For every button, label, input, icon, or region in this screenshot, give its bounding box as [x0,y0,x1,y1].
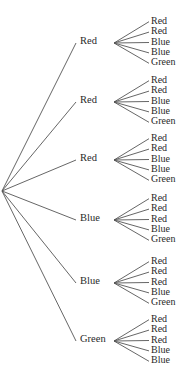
leaf-label-blue: Blue [151,355,170,365]
leaf-label-red: Red [151,266,167,276]
leaf-label-green: Green [151,116,175,126]
branch-line [114,320,149,341]
leaf-label-red: Red [151,214,167,224]
leaf-label-blue: Blue [151,96,170,106]
branch-line [2,102,76,191]
branch-line [2,191,76,341]
branch-line [114,160,149,161]
branch-line [114,22,149,43]
branch-label-red: Red [80,95,97,106]
branch-line [114,220,149,230]
branch-line [2,43,76,191]
branch-line [114,91,149,102]
branch-line [114,283,149,284]
branch-line [114,220,149,240]
branch-line [114,262,149,283]
branch-line [114,160,149,170]
leaf-label-blue: Blue [151,37,170,47]
branch-line [114,149,149,160]
branch-line [114,139,149,160]
leaf-label-red: Red [151,143,167,153]
leaf-label-green: Green [151,297,175,307]
branch-line [114,272,149,283]
branch-label-red: Red [80,36,97,47]
branch-line [2,160,76,191]
branch-line [114,32,149,43]
branch-line [114,330,149,341]
leaf-label-red: Red [151,277,167,287]
branch-line [114,341,149,361]
branch-line [114,341,149,342]
branch-line [114,209,149,220]
branch-line [114,160,149,180]
branch-label-blue: Blue [80,213,100,224]
branch-line [114,43,149,53]
branch-line [114,102,149,122]
branch-line [114,102,149,103]
branch-line [114,220,149,221]
leaf-label-red: Red [151,203,167,213]
leaf-label-green: Green [151,57,175,67]
branch-line [114,43,149,63]
branch-line [114,283,149,303]
leaf-label-red: Red [151,324,167,334]
branch-line [2,191,76,283]
branch-line [114,43,149,44]
branch-line [114,102,149,112]
leaf-label-green: Green [151,174,175,184]
leaf-label-blue: Blue [151,154,170,164]
branch-line [114,199,149,220]
branch-label-red: Red [80,153,97,164]
leaf-label-red: Red [151,26,167,36]
branch-label-green: Green [80,334,106,345]
leaf-label-red: Red [151,85,167,95]
branch-line [114,341,149,351]
leaf-label-red: Red [151,335,167,345]
branch-line [114,81,149,102]
branch-line [114,283,149,293]
branch-label-blue: Blue [80,276,100,287]
leaf-label-green: Green [151,234,175,244]
